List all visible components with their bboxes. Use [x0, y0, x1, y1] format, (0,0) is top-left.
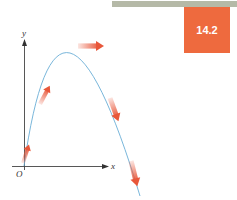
velocity-vector-launch: [19, 143, 32, 164]
velocity-vector-falling: [106, 96, 123, 122]
x-axis: [12, 164, 109, 169]
velocity-vector-rising: [36, 84, 53, 106]
y-axis-label: y: [21, 28, 26, 38]
trajectory-curve: [24, 53, 140, 196]
velocity-vector-late: [126, 160, 142, 188]
trajectory-diagram: y x O: [0, 0, 237, 200]
origin-label: O: [16, 169, 23, 179]
velocity-vector-peak: [78, 41, 104, 51]
x-axis-label: x: [110, 161, 115, 171]
